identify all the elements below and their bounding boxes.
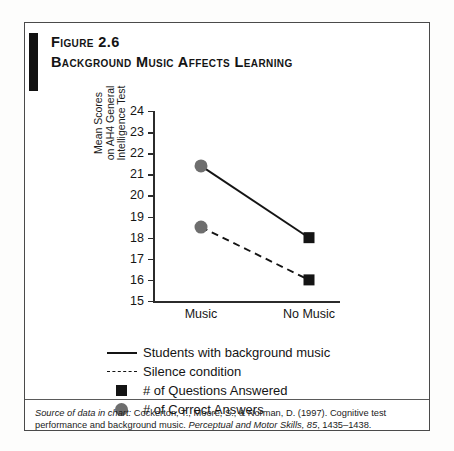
- legend-label: # of Questions Answered: [143, 383, 288, 398]
- y-axis-tick-label: 15: [130, 294, 144, 308]
- plot-area: 15161718192021222324 MusicNo Music: [153, 111, 339, 301]
- y-axis-title: Mean Scores on AH4 General Intelligence …: [93, 63, 128, 183]
- y-axis-tick-label: 16: [130, 273, 144, 287]
- dashed-line-icon: [103, 362, 143, 381]
- figure-box: Figure 2.6 Background Music Affects Lear…: [24, 22, 430, 431]
- legend-item-students-with-background-music: Students with background music: [103, 343, 403, 362]
- figure-number: Figure 2.6: [51, 33, 293, 52]
- series-plot: [153, 111, 339, 301]
- legend-label: Silence condition: [143, 364, 241, 379]
- source-note: Source of data in chart: Cockerton, T., …: [35, 407, 421, 431]
- legend-item-questions-answered: # of Questions Answered: [103, 381, 403, 400]
- source-divider: [25, 399, 429, 400]
- y-axis-tick-label: 21: [130, 167, 144, 181]
- y-axis-tick-label: 22: [130, 146, 144, 160]
- source-body-2: , 1435–1438.: [317, 420, 371, 430]
- series-line: [201, 166, 309, 238]
- x-axis-tick-label: Music: [185, 307, 218, 321]
- title-block: Figure 2.6 Background Music Affects Lear…: [51, 33, 293, 73]
- y-axis-tick-label: 17: [130, 252, 144, 266]
- data-point-square: [304, 274, 315, 285]
- y-axis-tick-label: 24: [130, 104, 144, 118]
- x-axis-tick-label: No Music: [283, 307, 335, 321]
- y-axis-title-line-1: Mean Scores: [93, 63, 105, 183]
- title-accent-bar: [29, 33, 38, 91]
- black-square-icon: [103, 381, 143, 400]
- y-axis-title-line-3: Intelligence Test: [116, 63, 128, 183]
- figure-title: Background Music Affects Learning: [51, 52, 293, 73]
- data-point-circle: [195, 221, 208, 234]
- figure-page: Figure 2.6 Background Music Affects Lear…: [0, 0, 454, 451]
- y-axis-tick-label: 20: [130, 188, 144, 202]
- y-axis-tick-label: 18: [130, 231, 144, 245]
- data-point-square: [304, 232, 315, 243]
- y-axis-tick-label: 19: [130, 210, 144, 224]
- legend-item-silence-condition: Silence condition: [103, 362, 403, 381]
- y-axis-tick-label: 23: [130, 125, 144, 139]
- solid-line-icon: [103, 343, 143, 362]
- chart: Mean Scores on AH4 General Intelligence …: [77, 107, 397, 337]
- legend-label: Students with background music: [143, 345, 330, 360]
- source-journal: Perceptual and Motor Skills, 85: [188, 420, 317, 430]
- y-axis-tick: [148, 301, 153, 302]
- x-axis-line: [153, 301, 340, 303]
- data-point-circle: [195, 159, 208, 172]
- source-prefix: Source of data in chart:: [35, 408, 131, 418]
- series-line: [201, 227, 309, 280]
